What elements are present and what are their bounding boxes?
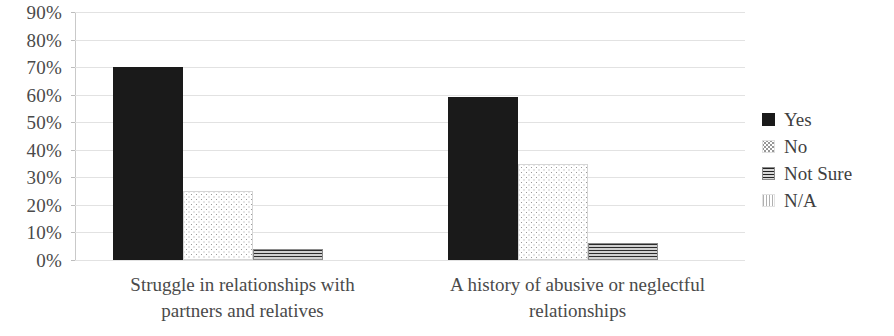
bar-yes [448,97,518,260]
y-axis-tick-label: 80% [27,30,62,49]
bar-yes [113,67,183,260]
legend-label: N/A [784,191,817,210]
solid-black-swatch-icon [762,113,775,126]
y-axis-tick-label: 60% [27,85,62,104]
y-axis-tick-label: 90% [27,3,62,22]
plot-area [75,12,745,260]
legend-item-n-a[interactable]: N/A [762,187,888,214]
category-label-line: A history of abusive or neglectful [410,272,745,298]
bar-group [75,12,410,260]
legend-label: Not Sure [784,164,852,183]
y-axis-tick-label: 70% [27,58,62,77]
category-label-line: Struggle in relationships with [75,272,410,298]
legend-item-no[interactable]: No [762,133,888,160]
legend-label: Yes [784,110,812,129]
y-axis-labels: 90%80%70%60%50%40%30%20%10%0% [0,12,68,260]
bar-no [518,164,588,260]
x-axis-category-labels: Struggle in relationships withpartners a… [75,272,745,334]
y-axis-tick-label: 0% [36,251,62,270]
legend-item-yes[interactable]: Yes [762,106,888,133]
legend-item-not-sure[interactable]: Not Sure [762,160,888,187]
x-axis-category-label: A history of abusive or neglectfulrelati… [410,272,745,323]
bar-not-sure [588,243,658,260]
y-axis-tick-label: 10% [27,223,62,242]
legend-label: No [784,137,807,156]
x-axis-category-label: Struggle in relationships withpartners a… [75,272,410,323]
bar-chart: 90%80%70%60%50%40%30%20%10%0% Struggle i… [0,0,894,336]
bar-not-sure [253,249,323,260]
bar-no [183,191,253,260]
chart-legend: YesNoNot SureN/A [762,106,888,214]
horizontal-stripes-swatch-icon [762,167,775,180]
fine-dots-swatch-icon [762,140,775,153]
y-axis-tick-label: 40% [27,140,62,159]
y-axis-tick-label: 30% [27,168,62,187]
gridline [75,260,745,261]
vertical-dots-swatch-icon [762,194,775,207]
category-label-line: relationships [410,298,745,324]
bar-group [410,12,745,260]
category-label-line: partners and relatives [75,298,410,324]
y-axis-tick-label: 20% [27,195,62,214]
y-axis-tick-mark [71,260,75,261]
y-axis-tick-label: 50% [27,113,62,132]
